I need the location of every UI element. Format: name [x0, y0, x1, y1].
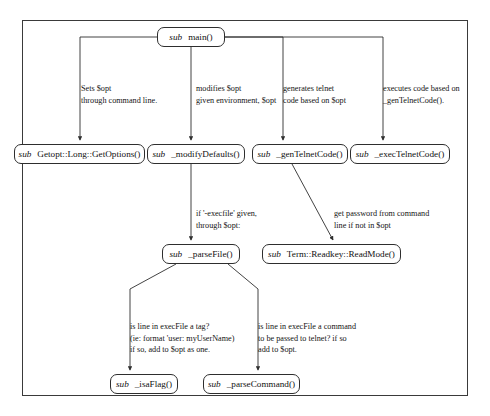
node-keyword: sub [169, 28, 182, 46]
node-keyword: sub [169, 245, 182, 263]
node-label: _isaFlag() [135, 375, 172, 393]
node-label: _execTelnetCode() [375, 145, 445, 163]
node-main[interactable]: sub main() [157, 27, 225, 47]
edge-label-line: get password from command [334, 208, 429, 220]
node-keyword: sub [268, 245, 281, 263]
node-label: _parseFile() [188, 245, 232, 263]
edge-label-line: generates telnet [283, 83, 346, 95]
node-label: main() [188, 28, 213, 46]
edge-label-line: (ie: format 'user: myUserName) [130, 333, 234, 345]
node-keyword: sub [19, 145, 32, 163]
edge-label-line: line if not in $opt [334, 220, 429, 232]
node-keyword: sub [152, 145, 165, 163]
node-term-readkey-readmode[interactable]: sub Term::Readkey::ReadMode() [262, 244, 401, 264]
node-keyword: sub [208, 375, 221, 393]
edge-label-line: add to $opt. [258, 344, 356, 356]
node-label: _modifyDefaults() [171, 145, 239, 163]
edge-label-line: through command line. [81, 95, 157, 107]
edge-label-line: if '-execfile' given, [196, 208, 257, 220]
edge-label-line: is line in execFile a tag? [130, 321, 234, 333]
node-label: _genTelnetCode() [276, 145, 342, 163]
node-label: Getopt::Long::GetOptions() [37, 145, 140, 163]
node-keyword: sub [116, 375, 129, 393]
edge-label-line: Sets $opt [81, 83, 157, 95]
edge-label-line: through $opt: [196, 220, 257, 232]
edge-label-line: _genTelnetCode(). [383, 95, 460, 107]
edge-label-gentelnetcode: generates telnet code based on $opt [283, 83, 346, 106]
node-isaflag[interactable]: sub _isaFlag() [110, 374, 178, 394]
edge-label-getoptions: Sets $opt through command line. [81, 83, 157, 106]
node-keyword: sub [356, 145, 369, 163]
edge-label-line: given environment, $opt [196, 95, 276, 107]
edge-label-isaflag: is line in execFile a tag? (ie: format '… [130, 321, 234, 356]
node-keyword: sub [258, 145, 271, 163]
node-label: Term::Readkey::ReadMode() [287, 245, 395, 263]
edge-label-readmode: get password from command line if not in… [334, 208, 429, 231]
node-modifydefaults[interactable]: sub _modifyDefaults() [147, 144, 245, 164]
node-gentelnetcode[interactable]: sub _genTelnetCode() [252, 144, 348, 164]
edge-label-exectelnetcode: executes code based on _genTelnetCode(). [383, 83, 460, 106]
edge-label-line: to be passed to telnet? if so [258, 333, 356, 345]
edge-label-line: executes code based on [383, 83, 460, 95]
node-label: _parseCommand() [227, 375, 295, 393]
node-getopt-long-getoptions[interactable]: sub Getopt::Long::GetOptions() [14, 144, 145, 164]
edge-label-line: is line in execFile a command [258, 321, 356, 333]
edge-label-modifydefaults: modifies $opt given environment, $opt [196, 83, 276, 106]
edge-label-line: if so, add to $opt as one. [130, 344, 234, 356]
edge-label-parsecommand: is line in execFile a command to be pass… [258, 321, 356, 356]
edge-label-line: modifies $opt [196, 83, 276, 95]
node-exectelnetcode[interactable]: sub _execTelnetCode() [350, 144, 450, 164]
diagram-canvas: sub main() sub Getopt::Long::GetOptions(… [0, 0, 490, 416]
node-parsefile[interactable]: sub _parseFile() [162, 244, 240, 264]
node-parsecommand[interactable]: sub _parseCommand() [203, 374, 300, 394]
edge-label-parsefile: if '-execfile' given, through $opt: [196, 208, 257, 231]
edge-label-line: code based on $opt [283, 95, 346, 107]
